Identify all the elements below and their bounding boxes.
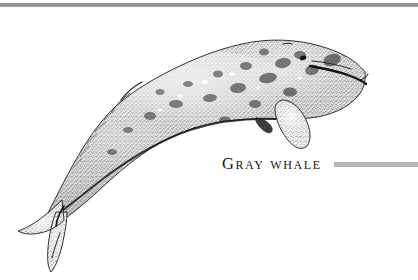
- illustration-page: Gray whale: [0, 0, 418, 280]
- caption-rule: [334, 162, 418, 167]
- gray-whale-illustration: [0, 0, 418, 280]
- ventral-nub: [256, 118, 273, 133]
- caption-block: Gray whale: [222, 152, 418, 176]
- caption-label: Gray whale: [222, 156, 322, 173]
